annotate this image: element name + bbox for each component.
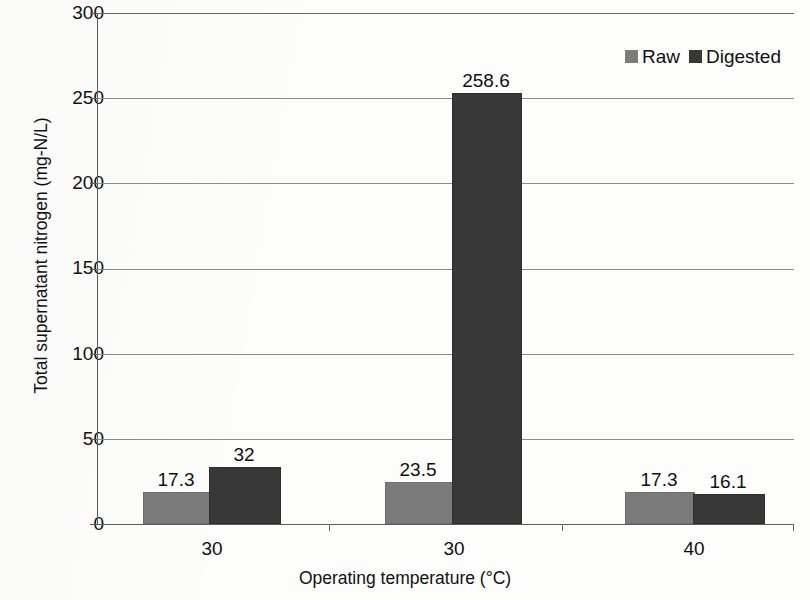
bar-chart-figure: Total supernatant nitrogen (mg-N/L) 300 …	[0, 0, 810, 600]
bar-value-raw-group-3: 17.3	[641, 469, 678, 491]
gridline-200	[97, 183, 794, 184]
legend-entry-digested: Digested	[689, 47, 781, 66]
y-tick-mark-150	[90, 269, 97, 270]
gridline-50	[97, 439, 794, 440]
bar-value-raw-group-1: 17.3	[158, 469, 195, 491]
bar-raw-group-1	[143, 492, 211, 524]
legend-swatch-raw-icon	[625, 50, 638, 63]
legend-label-digested: Digested	[706, 47, 781, 66]
bar-value-digested-group-3: 16.1	[710, 471, 747, 493]
y-tick-mark-0	[90, 524, 97, 525]
y-tick-mark-50	[90, 439, 97, 440]
legend-label-raw: Raw	[642, 47, 680, 66]
x-axis-line	[91, 524, 794, 525]
gridline-300	[97, 13, 794, 14]
x-tick-mark-3	[793, 524, 794, 531]
legend-swatch-digested-icon	[689, 50, 702, 63]
chart-legend: Raw Digested	[625, 47, 781, 66]
gridline-150	[97, 269, 794, 270]
bar-raw-group-2	[385, 482, 454, 524]
x-tick-mark-2	[562, 524, 563, 531]
y-tick-mark-200	[90, 183, 97, 184]
legend-entry-raw: Raw	[625, 47, 680, 66]
x-tick-mark-1	[329, 524, 330, 531]
bar-raw-group-3	[625, 492, 695, 524]
x-group-label-3: 40	[683, 538, 704, 560]
plot-area: 17.3 32 23.5 258.6 17.3 16.1	[97, 13, 794, 524]
gridline-100	[97, 354, 794, 355]
y-tick-label-150: 150	[24, 257, 104, 279]
y-tick-mark-100	[90, 354, 97, 355]
bar-value-digested-group-1: 32	[233, 444, 254, 466]
bar-value-raw-group-2: 23.5	[400, 459, 437, 481]
y-tick-mark-250	[90, 98, 97, 99]
y-tick-mark-300	[90, 13, 97, 14]
x-group-label-1: 30	[201, 538, 222, 560]
bar-digested-group-2	[452, 93, 522, 524]
bar-digested-group-3	[693, 494, 765, 524]
gridline-250	[97, 98, 794, 99]
bar-digested-group-1	[209, 467, 281, 524]
bar-value-digested-group-2: 258.6	[462, 70, 510, 92]
x-group-label-2: 30	[443, 538, 464, 560]
x-axis-title: Operating temperature (°C)	[0, 568, 810, 589]
